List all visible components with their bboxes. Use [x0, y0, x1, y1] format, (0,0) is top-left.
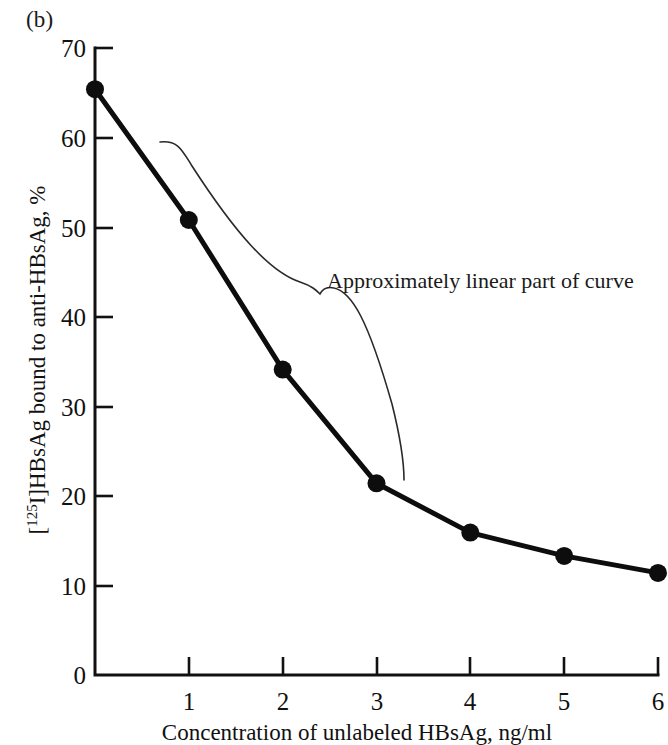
y-tick-label-50: 50 [61, 215, 86, 242]
x-tick-label-4: 4 [464, 688, 477, 715]
axis-lines [95, 48, 658, 675]
y-axis-title-group: [125I]HBsAg bound to anti-HBsAg, % [24, 186, 50, 535]
figure-panel: (b) 70 60 50 40 30 20 10 [0, 0, 668, 745]
chart-plot: 70 60 50 40 30 20 10 0 1 2 3 4 5 6 Conce… [0, 0, 668, 745]
y-axis-title-rest: I]HBsAg bound to anti-HBsAg, % [25, 186, 50, 505]
y-tick-label-10: 10 [61, 573, 86, 600]
data-point [274, 361, 292, 379]
y-tick-label-30: 30 [61, 394, 86, 421]
y-tick-label-60: 60 [61, 125, 86, 152]
x-tick-label-3: 3 [371, 688, 384, 715]
data-point [555, 547, 573, 565]
x-tick-label-6: 6 [652, 688, 665, 715]
y-tick-label-40: 40 [61, 304, 86, 331]
axes [95, 48, 658, 675]
brace-icon [160, 142, 404, 480]
annotation-label: Approximately linear part of curve [327, 268, 634, 293]
data-point [368, 474, 386, 492]
data-point [180, 211, 198, 229]
y-axis-title-bracket: [ [25, 527, 50, 535]
y-axis-title-superscript: 125 [24, 504, 40, 527]
y-tick-label-0: 0 [74, 662, 87, 689]
data-point [86, 80, 104, 98]
data-point [649, 564, 667, 582]
y-tick-label-20: 20 [61, 483, 86, 510]
data-point [461, 524, 479, 542]
x-tick-label-1: 1 [183, 688, 196, 715]
y-tick-labels: 70 60 50 40 30 20 10 0 [61, 35, 86, 689]
y-tick-label-70: 70 [61, 35, 86, 62]
y-axis-title: [125I]HBsAg bound to anti-HBsAg, % [24, 186, 50, 535]
data-series-line [95, 89, 658, 573]
x-axis-title: Concentration of unlabeled HBsAg, ng/ml [162, 720, 552, 745]
annotation-brace-callout: Approximately linear part of curve [160, 142, 634, 480]
x-tick-label-5: 5 [558, 688, 571, 715]
x-tick-labels: 1 2 3 4 5 6 [183, 688, 665, 715]
data-point-markers [86, 80, 667, 582]
x-tick-label-2: 2 [277, 688, 290, 715]
